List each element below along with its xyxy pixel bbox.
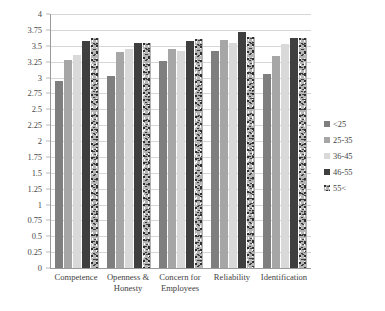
bar bbox=[177, 51, 185, 268]
y-axis-tick-label: 0.25 bbox=[28, 248, 42, 257]
bar-series-container bbox=[51, 14, 311, 268]
y-axis-tick-label: 2.25 bbox=[28, 121, 42, 130]
bar bbox=[159, 61, 167, 268]
bar bbox=[247, 37, 255, 268]
legend-swatch-icon bbox=[324, 169, 330, 175]
bar-group bbox=[207, 14, 259, 268]
legend-swatch-icon bbox=[324, 153, 330, 159]
bar bbox=[55, 81, 63, 268]
bar bbox=[73, 55, 81, 268]
bar bbox=[134, 43, 142, 268]
y-axis-tick-label: 4 bbox=[38, 10, 42, 19]
legend-item-label: 46-55 bbox=[333, 168, 353, 177]
y-axis-tick-label: 1.5 bbox=[32, 168, 42, 177]
bar-group bbox=[259, 14, 311, 268]
y-axis-tick-label: 0.75 bbox=[28, 216, 42, 225]
legend-swatch-icon bbox=[324, 137, 330, 143]
bar-group bbox=[155, 14, 207, 268]
bar bbox=[82, 41, 90, 268]
y-axis-tick-label: 2 bbox=[38, 137, 42, 146]
bar bbox=[107, 76, 115, 268]
bar bbox=[229, 43, 237, 268]
x-axis-label: Concern for Employees bbox=[154, 272, 206, 293]
legend-swatch-icon bbox=[324, 185, 330, 191]
bar bbox=[64, 60, 72, 268]
legend-item[interactable]: 25-35 bbox=[324, 132, 382, 148]
legend-item-label: 55< bbox=[333, 184, 346, 193]
bar bbox=[143, 43, 151, 268]
y-axis: 43.753.53.2532.752.52.2521.751.51.2510.7… bbox=[0, 14, 46, 268]
x-axis-label: Competence bbox=[50, 272, 102, 293]
plot-area bbox=[50, 14, 311, 269]
bar bbox=[272, 56, 280, 268]
y-axis-tick-label: 3 bbox=[38, 73, 42, 82]
legend-item[interactable]: 55< bbox=[324, 180, 382, 196]
x-axis-label: Reliability bbox=[206, 272, 258, 293]
bar bbox=[211, 51, 219, 268]
bar bbox=[281, 44, 289, 268]
legend-item-label: 36-45 bbox=[333, 152, 353, 161]
legend-item-label: 25-35 bbox=[333, 136, 353, 145]
bar bbox=[299, 38, 307, 269]
bar bbox=[125, 49, 133, 268]
y-axis-tick-label: 2.75 bbox=[28, 89, 42, 98]
y-axis-tick-label: 0 bbox=[38, 264, 42, 273]
legend-item[interactable]: 36-45 bbox=[324, 148, 382, 164]
bar-chart: 43.753.53.2532.752.52.2521.751.51.2510.7… bbox=[0, 0, 385, 311]
legend-item[interactable]: <25 bbox=[324, 116, 382, 132]
bar bbox=[290, 38, 298, 268]
y-axis-tick-label: 1.25 bbox=[28, 184, 42, 193]
x-axis-labels: CompetenceOpenness & HonestyConcern for … bbox=[50, 272, 310, 293]
legend: <2525-3536-4546-5555< bbox=[324, 116, 382, 196]
bar bbox=[91, 38, 99, 268]
bar bbox=[238, 32, 246, 268]
bar bbox=[116, 52, 124, 268]
x-axis-label: Openness & Honesty bbox=[102, 272, 154, 293]
y-axis-tick-label: 0.5 bbox=[32, 232, 42, 241]
y-axis-tick-label: 3.25 bbox=[28, 57, 42, 66]
bar bbox=[195, 39, 203, 268]
x-axis-label: Identification bbox=[258, 272, 310, 293]
y-axis-tick-label: 1.75 bbox=[28, 152, 42, 161]
bar-group bbox=[103, 14, 155, 268]
bar bbox=[186, 41, 194, 268]
legend-swatch-icon bbox=[324, 121, 330, 127]
bar-group bbox=[51, 14, 103, 268]
legend-item[interactable]: 46-55 bbox=[324, 164, 382, 180]
y-axis-tick-label: 3.75 bbox=[28, 25, 42, 34]
y-axis-tick-label: 2.5 bbox=[32, 105, 42, 114]
y-axis-tick-label: 3.5 bbox=[32, 41, 42, 50]
bar bbox=[168, 49, 176, 268]
legend-item-label: <25 bbox=[333, 120, 346, 129]
bar bbox=[220, 40, 228, 268]
y-axis-tick-label: 1 bbox=[38, 200, 42, 209]
bar bbox=[263, 74, 271, 268]
